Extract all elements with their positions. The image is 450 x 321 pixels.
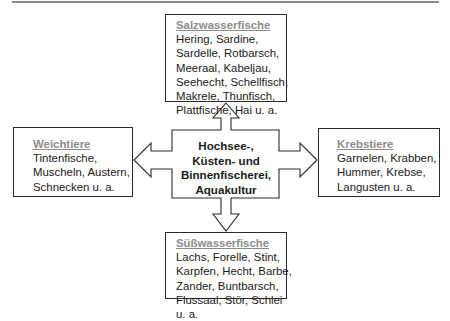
box-line: Langusten u. a. [337, 180, 439, 194]
box-title: Süßwasserfische [176, 236, 286, 250]
box-krebstiere: Krebstiere Garnelen, Krabben, Hummer, Kr… [318, 128, 440, 197]
center-line: Aquakultur [172, 183, 280, 198]
box-salzwasserfische: Salzwasserfische Hering, Sardine, Sardel… [165, 14, 287, 102]
center-line: Hochsee-, [172, 139, 280, 154]
box-line: Plattfische, Hai u. a. [176, 103, 286, 117]
center-box-fishery: Hochsee-, Küsten- und Binnenfischerei, A… [172, 130, 280, 198]
box-weichtiere: Weichtiere Tintenfische, Muscheln, Auste… [13, 127, 133, 197]
box-line: Karpfen, Hecht, Barbe, [176, 264, 286, 278]
box-line: Meeraal, Kabeljau, [176, 61, 286, 75]
box-suesswasserfische: Süßwasserfische Lachs, Forelle, Stint, K… [165, 232, 287, 299]
box-title: Salzwasserfische [176, 18, 286, 32]
box-title: Weichtiere [33, 137, 132, 151]
box-line: Flussaal, Stör, Schlei [176, 293, 286, 307]
box-line: Makrele, Thunfisch, [176, 89, 286, 103]
box-line: Seehecht, Schellfisch, [176, 75, 286, 89]
center-line: Küsten- und [172, 154, 280, 169]
box-line: Garnelen, Krabben, [337, 151, 439, 165]
box-line: Hering, Sardine, [176, 32, 286, 46]
box-title: Krebstiere [337, 137, 439, 151]
center-line: Binnenfischerei, [172, 168, 280, 183]
box-line: u. a. [176, 307, 286, 321]
box-line: Zander, Buntbarsch, [176, 279, 286, 293]
box-line: Sardelle, Rotbarsch, [176, 46, 286, 60]
box-line: Schnecken u. a. [33, 180, 132, 194]
box-line: Lachs, Forelle, Stint, [176, 250, 286, 264]
box-line: Muscheln, Austern, [33, 165, 132, 179]
box-line: Hummer, Krebse, [337, 165, 439, 179]
box-line: Tintenfische, [33, 151, 132, 165]
